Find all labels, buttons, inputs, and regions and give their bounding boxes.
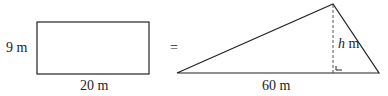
rectangle-height-label: 9 m	[6, 40, 28, 55]
triangle-base-label: 60 m	[262, 78, 291, 93]
equals-sign: =	[170, 40, 178, 55]
right-angle-marker	[336, 66, 342, 70]
triangle-height-label: h m	[338, 36, 360, 51]
rectangle-shape	[37, 22, 149, 74]
area-diagram: 9 m 20 m = h m 60 m	[0, 0, 388, 96]
rectangle-width-label: 20 m	[80, 78, 109, 93]
